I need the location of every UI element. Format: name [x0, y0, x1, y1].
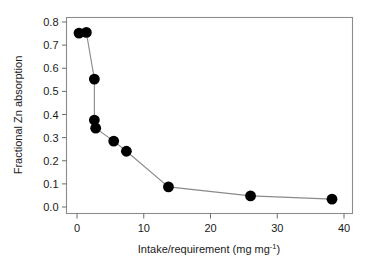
x-axis-tick-labels: 010203040 [74, 222, 350, 234]
x-axis-title-main: Intake/requirement (mg mg [138, 243, 270, 255]
data-point [245, 191, 256, 202]
chart-figure: 0.00.10.20.30.40.50.60.70.8 010203040 Fr… [0, 0, 370, 268]
data-point [121, 146, 132, 157]
y-tick-label: 0.7 [43, 39, 58, 51]
x-tick-label: 30 [271, 222, 283, 234]
y-tick-label: 0.5 [43, 85, 58, 97]
data-point [108, 136, 119, 147]
data-point [89, 74, 100, 85]
data-point [81, 27, 92, 38]
y-axis-ticks [62, 22, 67, 207]
data-point [327, 194, 338, 205]
series-points [74, 27, 338, 205]
x-axis-title: Intake/requirement (mg mg-1) [138, 242, 280, 255]
data-point [90, 123, 101, 134]
y-tick-label: 0.1 [43, 178, 58, 190]
x-axis-ticks [77, 214, 344, 219]
series-line [79, 32, 332, 199]
y-axis-tick-labels: 0.00.10.20.30.40.50.60.70.8 [43, 16, 58, 213]
x-axis-title-tail: ) [277, 243, 281, 255]
plot-frame [67, 18, 353, 214]
y-tick-label: 0.4 [43, 109, 58, 121]
chart-canvas: 0.00.10.20.30.40.50.60.70.8 010203040 Fr… [0, 0, 370, 268]
data-point [163, 181, 174, 192]
x-tick-label: 20 [204, 222, 216, 234]
x-tick-label: 40 [338, 222, 350, 234]
x-tick-label: 10 [138, 222, 150, 234]
x-axis-title-superscript: -1 [270, 242, 277, 251]
y-tick-label: 0.3 [43, 132, 58, 144]
y-tick-label: 0.0 [43, 201, 58, 213]
x-tick-label: 0 [74, 222, 80, 234]
y-tick-label: 0.8 [43, 16, 58, 28]
y-tick-label: 0.6 [43, 62, 58, 74]
y-axis-title: Fractional Zn absorption [12, 56, 24, 175]
y-tick-label: 0.2 [43, 155, 58, 167]
